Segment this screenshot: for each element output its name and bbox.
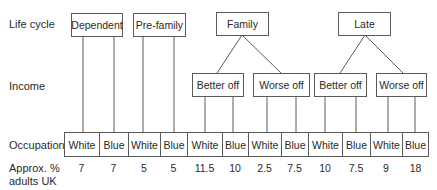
percent-value: 10 xyxy=(308,162,342,174)
occupation-cell: White xyxy=(187,132,222,157)
occupation-cell: Blue xyxy=(342,132,370,157)
occupation-cell: White xyxy=(64,132,99,157)
row-label-approx-line2: adults UK xyxy=(9,175,60,188)
percent-value: 7.5 xyxy=(342,162,370,174)
row-label-occupation: Occupation xyxy=(9,139,65,152)
row-label-approx-percent: Approx. % adults UK xyxy=(9,162,60,188)
income-box-late-worse-off: Worse off xyxy=(376,73,427,97)
percent-value: 7.5 xyxy=(281,162,308,174)
percent-value: 9 xyxy=(370,162,402,174)
occupation-cell: Blue xyxy=(160,132,187,157)
percent-value: 7 xyxy=(99,162,128,174)
income-box-late-better-off: Better off xyxy=(314,73,367,97)
income-box-family-worse-off: Worse off xyxy=(253,73,310,97)
occupation-cell: Blue xyxy=(402,132,429,157)
occupation-cell: Blue xyxy=(222,132,248,157)
occupation-cell: White xyxy=(370,132,402,157)
life-cycle-box-dependent: Dependent xyxy=(71,13,123,37)
percent-value: 5 xyxy=(160,162,187,174)
income-box-family-better-off: Better off xyxy=(192,73,244,97)
row-label-life-cycle: Life cycle xyxy=(9,18,55,31)
occupation-cell: Blue xyxy=(281,132,308,157)
percent-value: 7 xyxy=(64,162,99,174)
occupation-cell: Blue xyxy=(99,132,128,157)
percent-value: 2.5 xyxy=(248,162,281,174)
occupation-cell: White xyxy=(308,132,342,157)
occupation-cell: White xyxy=(248,132,281,157)
occupation-cell: White xyxy=(128,132,160,157)
row-label-income: Income xyxy=(9,80,45,93)
percent-value: 18 xyxy=(402,162,429,174)
life-cycle-box-pre-family: Pre-family xyxy=(133,13,186,37)
percent-value: 5 xyxy=(128,162,160,174)
percent-value: 10 xyxy=(222,162,248,174)
percent-value: 11.5 xyxy=(187,162,222,174)
life-cycle-box-family: Family xyxy=(216,12,269,36)
row-label-approx-line1: Approx. % xyxy=(9,162,60,175)
life-cycle-box-late: Late xyxy=(338,12,391,36)
